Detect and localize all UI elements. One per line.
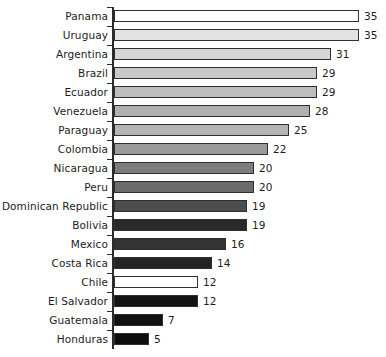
bar-row[interactable]: Peru20 — [0, 178, 386, 197]
category-label: Venezuela — [0, 103, 108, 120]
bar-value-label: 12 — [203, 274, 216, 291]
bar[interactable] — [114, 86, 317, 98]
bar-row[interactable]: Ecuador29 — [0, 83, 386, 102]
category-label: Mexico — [0, 236, 108, 253]
bar-fill — [114, 257, 212, 269]
category-label: Brazil — [0, 65, 108, 82]
bar-fill — [114, 276, 198, 288]
bar-value-label: 35 — [364, 8, 377, 25]
bar-fill — [114, 86, 317, 98]
bar-fill — [114, 67, 317, 79]
bar-value-label: 22 — [273, 141, 286, 158]
bar-row[interactable]: Bolivia19 — [0, 216, 386, 235]
bar[interactable] — [114, 238, 226, 250]
bar[interactable] — [114, 10, 359, 22]
bar-row[interactable]: Panama35 — [0, 7, 386, 26]
bar-row[interactable]: Nicaragua20 — [0, 159, 386, 178]
category-label: Costa Rica — [0, 255, 108, 272]
bar-value-label: 20 — [259, 179, 272, 196]
bar-value-label: 12 — [203, 293, 216, 310]
bar-value-label: 19 — [252, 198, 265, 215]
bar[interactable] — [114, 276, 198, 288]
bar[interactable] — [114, 67, 317, 79]
bar-row[interactable]: Venezuela28 — [0, 102, 386, 121]
bar-row[interactable]: Brazil29 — [0, 64, 386, 83]
bar-fill — [114, 124, 289, 136]
category-label: Colombia — [0, 141, 108, 158]
bar-fill — [114, 48, 331, 60]
bar-row[interactable]: Uruguay35 — [0, 26, 386, 45]
bar-value-label: 25 — [294, 122, 307, 139]
bar-value-label: 20 — [259, 160, 272, 177]
bar-fill — [114, 238, 226, 250]
bar-fill — [114, 181, 254, 193]
bar-value-label: 29 — [322, 65, 335, 82]
bar[interactable] — [114, 314, 163, 326]
category-label: Uruguay — [0, 27, 108, 44]
bar-row[interactable]: Mexico16 — [0, 235, 386, 254]
bar-value-label: 7 — [168, 312, 175, 329]
bar[interactable] — [114, 162, 254, 174]
bar[interactable] — [114, 257, 212, 269]
category-label: Nicaragua — [0, 160, 108, 177]
bar-row[interactable]: Paraguay25 — [0, 121, 386, 140]
bar-row[interactable]: Guatemala7 — [0, 311, 386, 330]
bar[interactable] — [114, 219, 247, 231]
bar-fill — [114, 200, 247, 212]
category-label: Honduras — [0, 331, 108, 348]
bar[interactable] — [114, 181, 254, 193]
bar-rows: Panama35Uruguay35Argentina31Brazil29Ecua… — [0, 7, 386, 349]
bar-fill — [114, 10, 359, 22]
bar-row[interactable]: El Salvador12 — [0, 292, 386, 311]
bar-value-label: 31 — [336, 46, 349, 63]
bar-row[interactable]: Colombia22 — [0, 140, 386, 159]
bar[interactable] — [114, 295, 198, 307]
category-label: Peru — [0, 179, 108, 196]
bar[interactable] — [114, 333, 149, 345]
bar-value-label: 16 — [231, 236, 244, 253]
bar-fill — [114, 219, 247, 231]
bar-fill — [114, 295, 198, 307]
category-label: Panama — [0, 8, 108, 25]
category-label: Guatemala — [0, 312, 108, 329]
bar-value-label: 28 — [315, 103, 328, 120]
bar-value-label: 35 — [364, 27, 377, 44]
bar-chart: Panama35Uruguay35Argentina31Brazil29Ecua… — [0, 0, 386, 357]
bar[interactable] — [114, 143, 268, 155]
category-label: Dominican Republic — [0, 198, 108, 215]
bar-value-label: 19 — [252, 217, 265, 234]
bar[interactable] — [114, 200, 247, 212]
bar-fill — [114, 333, 149, 345]
plot-area: Panama35Uruguay35Argentina31Brazil29Ecua… — [0, 0, 386, 357]
category-label: Argentina — [0, 46, 108, 63]
bar-row[interactable]: Argentina31 — [0, 45, 386, 64]
bar[interactable] — [114, 105, 310, 117]
bar[interactable] — [114, 124, 289, 136]
bar-fill — [114, 105, 310, 117]
bar[interactable] — [114, 29, 359, 41]
bar-row[interactable]: Chile12 — [0, 273, 386, 292]
bar-fill — [114, 314, 163, 326]
bar-row[interactable]: Honduras5 — [0, 330, 386, 349]
bar-fill — [114, 143, 268, 155]
bar[interactable] — [114, 48, 331, 60]
bar-row[interactable]: Costa Rica14 — [0, 254, 386, 273]
bar-value-label: 5 — [154, 331, 161, 348]
bar-value-label: 29 — [322, 84, 335, 101]
category-label: Paraguay — [0, 122, 108, 139]
category-label: Chile — [0, 274, 108, 291]
category-label: Bolivia — [0, 217, 108, 234]
category-label: El Salvador — [0, 293, 108, 310]
bar-value-label: 14 — [217, 255, 230, 272]
bar-fill — [114, 29, 359, 41]
bar-fill — [114, 162, 254, 174]
bar-row[interactable]: Dominican Republic19 — [0, 197, 386, 216]
category-label: Ecuador — [0, 84, 108, 101]
